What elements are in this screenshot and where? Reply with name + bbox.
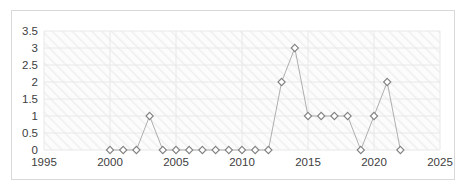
x-axis-tick-labels: 1995200020052010201520202025 (31, 156, 453, 168)
y-axis-tick-labels: 00.511.522.533.5 (22, 25, 38, 156)
x-tick-label: 2025 (427, 156, 453, 168)
line-chart: 00.511.522.533.5 19952000200520102015202… (0, 0, 465, 187)
y-tick-label: 3.5 (22, 25, 38, 37)
chart-container: 00.511.522.533.5 19952000200520102015202… (0, 0, 465, 187)
y-tick-label: 3 (32, 42, 38, 54)
x-tick-label: 2015 (295, 156, 321, 168)
y-tick-label: 1 (32, 110, 38, 122)
y-tick-label: 1.5 (22, 93, 38, 105)
y-tick-label: 2.5 (22, 59, 38, 71)
y-tick-label: 0 (32, 144, 38, 156)
y-tick-label: 2 (32, 76, 38, 88)
x-tick-label: 2010 (229, 156, 255, 168)
x-tick-label: 2005 (163, 156, 189, 168)
x-tick-label: 1995 (31, 156, 57, 168)
y-tick-label: 0.5 (22, 127, 38, 139)
x-tick-label: 2020 (361, 156, 387, 168)
x-tick-label: 2000 (97, 156, 123, 168)
